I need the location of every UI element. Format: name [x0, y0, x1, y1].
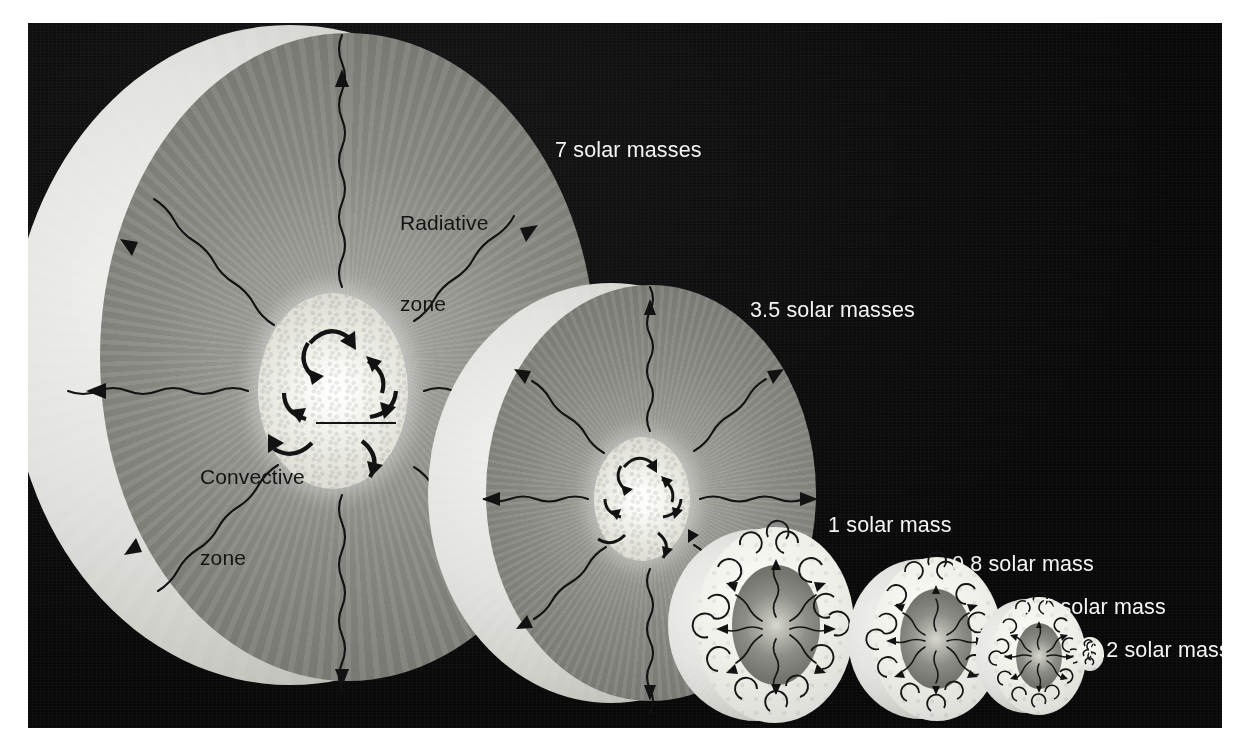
- radiative-zone-line1: Radiative: [400, 209, 488, 236]
- star-7-label: 7 solar masses: [555, 138, 702, 163]
- star-1-label: 1 solar mass: [828, 513, 952, 538]
- radiative-zone-line2: zone: [400, 290, 488, 317]
- star-0p5-label: 0.5 solar mass: [1024, 595, 1166, 620]
- star-0p8-label: 0.8 solar mass: [952, 552, 1094, 577]
- convective-zone-annotation: Convective zone: [200, 409, 305, 625]
- star-0p2-label: 0.2 solar mass: [1088, 638, 1222, 663]
- convective-zone-line1: Convective: [200, 463, 305, 490]
- star-0p5-radiative-core: [1016, 623, 1062, 689]
- illustration-panel: 7 solar masses 3.5 solar masses 1 solar …: [28, 23, 1222, 728]
- radiative-zone-annotation: Radiative zone: [400, 155, 488, 371]
- convective-zone-leader-line: [316, 422, 396, 424]
- star-1-radiative-core: [732, 565, 820, 685]
- page-background: 7 solar masses 3.5 solar masses 1 solar …: [0, 0, 1252, 750]
- star-3p5-label: 3.5 solar masses: [750, 298, 915, 323]
- convective-zone-line2: zone: [200, 544, 305, 571]
- star-0p8-radiative-core: [900, 589, 972, 689]
